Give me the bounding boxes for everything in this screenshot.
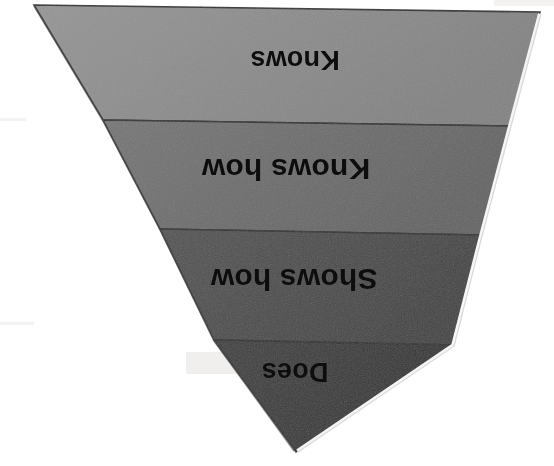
band-label-does: Does <box>236 356 354 387</box>
band-label-knows-how: Knows how <box>180 152 392 186</box>
band-label-shows-how: Shows how <box>192 262 396 296</box>
band-label-knows: Knows <box>227 44 363 75</box>
diagram-canvas: Knows Knows how Shows how Does <box>0 0 554 466</box>
